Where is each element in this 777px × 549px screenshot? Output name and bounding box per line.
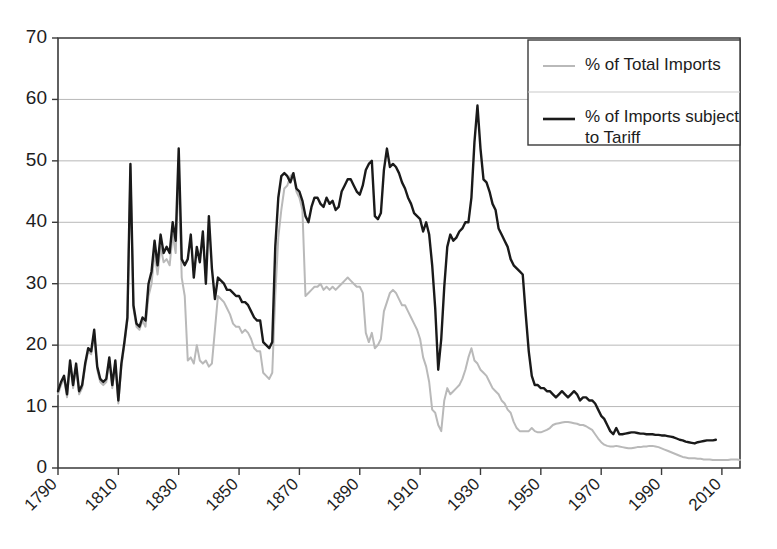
chart-legend: % of Total Imports % of Imports subject …: [528, 40, 740, 147]
y-tick-label-40: 40: [26, 210, 47, 231]
chart-container: 0 10 20 30 40 50 60 70 1790 1810 1830 18…: [0, 0, 777, 549]
y-tick-label-30: 30: [26, 272, 47, 293]
tariff-line-chart: 0 10 20 30 40 50 60 70 1790 1810 1830 18…: [0, 0, 777, 549]
legend-label-dutiable-imports-line1: % of Imports subject: [585, 107, 739, 126]
y-tick-label-60: 60: [26, 87, 47, 108]
legend-label-dutiable-imports-line2: to Tariff: [585, 128, 640, 147]
y-tick-label-0: 0: [36, 456, 47, 477]
legend-label-total-imports: % of Total Imports: [585, 55, 721, 74]
y-tick-label-10: 10: [26, 395, 47, 416]
y-tick-label-20: 20: [26, 333, 47, 354]
y-tick-label-70: 70: [26, 26, 47, 47]
y-tick-label-50: 50: [26, 149, 47, 170]
